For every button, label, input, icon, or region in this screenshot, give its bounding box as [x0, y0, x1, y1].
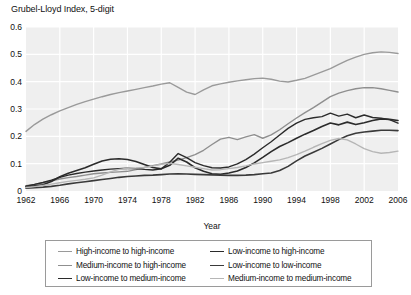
legend-label: Medium-income to medium-income: [228, 274, 351, 283]
chart-figure: Grubel-Lloyd Index, 5-digit 00.10.20.30.…: [0, 0, 411, 295]
legend-swatch: [58, 278, 72, 279]
x-axis-tick-labels: 1962196619701974197819821986199019941998…: [17, 195, 408, 205]
x-tick-label: 1986: [219, 195, 238, 205]
legend-entry[interactable]: Medium-income to medium-income: [210, 272, 385, 286]
legend-entry[interactable]: Low-income to low-income: [210, 259, 385, 273]
x-tick-label: 1994: [287, 195, 306, 205]
legend-swatch: [58, 265, 72, 266]
x-tick-label: 1998: [321, 195, 340, 205]
y-tick-label: 0.6: [10, 22, 22, 32]
x-tick-label: 1962: [17, 195, 36, 205]
y-tick-label: 0.2: [10, 131, 22, 141]
legend-label: Low-income to high-income: [228, 247, 324, 256]
x-tick-label: 1966: [50, 195, 69, 205]
y-tick-label: 0.1: [10, 159, 22, 169]
legend-swatch: [58, 251, 72, 252]
chart-legend: High-income to high-incomeLow-income to …: [45, 240, 372, 287]
y-tick-label: 0.4: [10, 77, 22, 87]
x-axis-label: Year: [203, 221, 220, 231]
x-tick-label: 1970: [84, 195, 103, 205]
x-tick-label: 1978: [152, 195, 171, 205]
legend-entry[interactable]: Medium-income to high-income: [58, 259, 210, 273]
legend-entry[interactable]: High-income to high-income: [58, 245, 210, 259]
chart-plot-area: 00.10.20.30.40.50.6 19621966197019741978…: [0, 0, 411, 240]
legend-label: Medium-income to high-income: [76, 261, 186, 270]
x-tick-label: 1990: [253, 195, 272, 205]
x-tick-label: 1974: [118, 195, 137, 205]
legend-swatch: [210, 278, 224, 279]
legend-entry[interactable]: Low-income to high-income: [210, 245, 385, 259]
x-tick-label: 2006: [389, 195, 408, 205]
legend-label: Low-income to medium-income: [76, 274, 186, 283]
y-tick-label: 0.3: [10, 104, 22, 114]
legend-grid: High-income to high-incomeLow-income to …: [46, 241, 371, 286]
legend-label: Low-income to low-income: [228, 261, 321, 270]
legend-label: High-income to high-income: [76, 247, 174, 256]
x-tick-label: 2002: [355, 195, 374, 205]
legend-swatch: [210, 265, 224, 266]
legend-entry[interactable]: Low-income to medium-income: [58, 272, 210, 286]
y-tick-label: 0.5: [10, 49, 22, 59]
y-axis-tick-labels: 00.10.20.30.40.50.6: [10, 22, 22, 196]
x-tick-label: 1982: [186, 195, 205, 205]
legend-swatch: [210, 251, 224, 252]
